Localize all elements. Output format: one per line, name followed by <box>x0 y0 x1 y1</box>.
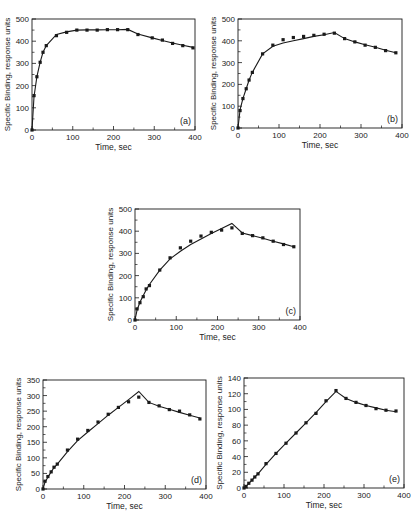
data-point-marker <box>284 442 287 445</box>
y-tick-label: 80 <box>232 421 241 430</box>
data-point-marker <box>264 462 267 465</box>
data-point-marker <box>344 397 347 400</box>
chart-panel-e: 0204060801001201400100200300400Time, sec… <box>0 0 417 512</box>
data-point-marker <box>354 401 357 404</box>
data-point-marker <box>394 409 397 412</box>
data-point-marker <box>244 485 247 488</box>
data-point-marker <box>294 431 297 434</box>
data-point-marker <box>364 404 367 407</box>
y-tick-label: 140 <box>228 374 242 383</box>
data-point-marker <box>324 399 327 402</box>
y-tick-label: 120 <box>228 390 242 399</box>
data-point-marker <box>256 472 259 475</box>
y-tick-label: 20 <box>232 468 241 477</box>
x-tick-label: 400 <box>397 491 411 500</box>
x-axis-label: Time, sec <box>306 500 343 510</box>
x-tick-label: 0 <box>242 491 247 500</box>
data-point-marker <box>334 389 337 392</box>
data-point-marker <box>274 452 277 455</box>
y-tick-label: 100 <box>228 405 242 414</box>
data-point-marker <box>304 421 307 424</box>
fit-line <box>244 391 396 488</box>
data-point-marker <box>253 475 256 478</box>
data-point-marker <box>314 412 317 415</box>
data-point-marker <box>250 479 253 482</box>
data-point-marker <box>374 407 377 410</box>
plot-frame <box>244 378 404 488</box>
x-tick-label: 300 <box>357 491 371 500</box>
panel-label: (e) <box>389 474 400 484</box>
data-point-marker <box>384 409 387 412</box>
data-point-marker <box>247 482 250 485</box>
y-axis-label: Specific Binding, response units <box>215 376 224 489</box>
x-tick-label: 100 <box>277 491 291 500</box>
y-tick-label: 40 <box>232 453 241 462</box>
x-tick-label: 200 <box>317 491 331 500</box>
y-tick-label: 60 <box>232 437 241 446</box>
